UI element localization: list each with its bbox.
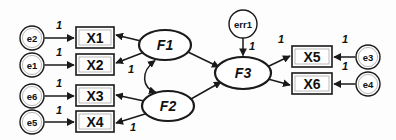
- node-e2[interactable]: e2: [20, 26, 44, 50]
- coef-F3-to-X5: 1: [278, 33, 284, 45]
- node-e2-label: e2: [27, 33, 38, 44]
- sem-canvas: e2 e1 e6 e5 e3: [0, 0, 396, 140]
- node-X6-label: X6: [303, 76, 320, 92]
- node-F1-label: F1: [157, 37, 174, 53]
- node-err1[interactable]: err1: [229, 10, 257, 38]
- coef-e2-to-X1: 1: [56, 19, 62, 31]
- coef-e1-to-X2: 1: [56, 46, 62, 58]
- node-X6[interactable]: X6: [292, 73, 332, 94]
- node-F1[interactable]: F1: [139, 30, 191, 60]
- node-X1[interactable]: X1: [76, 27, 114, 48]
- node-err1-label: err1: [234, 19, 253, 30]
- node-F3[interactable]: F3: [215, 57, 271, 89]
- coef-F1-to-X2: 1: [128, 63, 134, 75]
- edge-F3-to-X6: [268, 79, 290, 85]
- node-e3[interactable]: e3: [356, 45, 380, 69]
- edge-F1-to-X1: [116, 35, 141, 41]
- node-layer: e2 e1 e6 e5 e3: [20, 10, 380, 134]
- coef-err1-to-F3: 1: [249, 40, 255, 52]
- coef-e3-to-X5: 1: [342, 33, 348, 45]
- node-X5[interactable]: X5: [292, 46, 332, 67]
- node-X5-label: X5: [303, 49, 320, 65]
- node-F2-label: F2: [160, 98, 177, 114]
- coef-e4-to-X6: 1: [342, 60, 348, 72]
- node-X2-label: X2: [86, 57, 103, 73]
- node-F3-label: F3: [235, 65, 252, 81]
- node-e4-label: e4: [363, 79, 374, 90]
- edge-F2-to-F3: [191, 82, 221, 99]
- node-e3-label: e3: [363, 52, 374, 63]
- node-X2[interactable]: X2: [76, 54, 114, 75]
- edge-F2-to-X3: [116, 95, 144, 101]
- node-e6[interactable]: e6: [20, 84, 44, 108]
- node-X3[interactable]: X3: [76, 85, 114, 106]
- node-e5[interactable]: e5: [20, 110, 44, 134]
- coef-F2-to-X4: 1: [130, 121, 136, 133]
- node-e4[interactable]: e4: [356, 72, 380, 96]
- edge-F1-F2-covariance: [145, 61, 156, 93]
- sem-path-diagram: e2 e1 e6 e5 e3: [0, 0, 396, 140]
- node-e5-label: e5: [27, 117, 38, 128]
- node-X3-label: X3: [86, 88, 103, 104]
- coef-e6-to-X3: 1: [56, 77, 62, 89]
- node-e1-label: e1: [27, 60, 38, 71]
- node-F2[interactable]: F2: [142, 91, 194, 121]
- node-X1-label: X1: [86, 30, 103, 46]
- node-X4-label: X4: [86, 114, 103, 130]
- coef-e5-to-X4: 1: [56, 104, 62, 116]
- node-X4[interactable]: X4: [76, 111, 114, 132]
- edge-F1-to-X2: [116, 53, 142, 63]
- edge-F3-to-X5: [267, 56, 290, 67]
- edge-F1-to-F3: [188, 52, 219, 67]
- node-e1[interactable]: e1: [20, 53, 44, 77]
- node-e6-label: e6: [27, 91, 38, 102]
